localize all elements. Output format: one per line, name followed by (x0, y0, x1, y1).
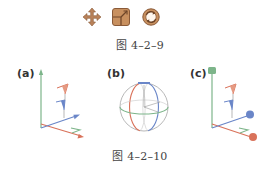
scale-gizmo (205, 66, 265, 142)
scale-icon (111, 7, 131, 27)
tool-icon-row (82, 7, 182, 29)
figure-caption-4-2-9: 图 4–2–9 (108, 36, 172, 52)
figure-caption-4-2-10: 图 4–2–10 (100, 147, 180, 163)
translate-gizmo (30, 68, 90, 140)
rotate-gizmo (118, 75, 170, 135)
rotate-icon (141, 7, 161, 27)
move-icon (82, 7, 102, 27)
